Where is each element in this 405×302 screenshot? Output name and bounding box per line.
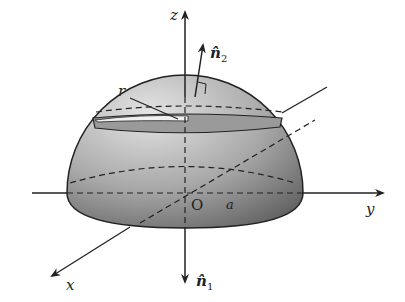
radius-extension — [282, 87, 327, 113]
x-axis — [52, 227, 130, 276]
z-axis-label: z — [170, 8, 178, 23]
radius-label: a — [226, 198, 234, 211]
x-axis-label: x — [66, 278, 74, 293]
y-axis-label: y — [366, 202, 374, 217]
diagram-canvas — [0, 0, 405, 302]
normal-n2-label: n̂2 — [210, 46, 227, 64]
hemisphere-diagram: z y x O a r n̂2 n̂1 — [0, 0, 405, 302]
slice-radius-label: r — [118, 84, 125, 99]
origin-label: O — [191, 198, 203, 213]
normal-n1-label: n̂1 — [196, 274, 213, 292]
